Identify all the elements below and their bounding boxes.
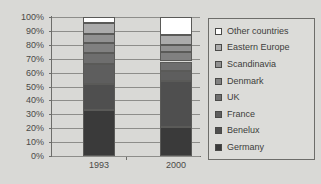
bar-segment [160, 81, 192, 127]
bar-segment [160, 71, 192, 81]
y-axis-tick-label: 20% [26, 124, 44, 133]
y-axis-tick-label: 40% [26, 96, 44, 105]
y-axis-tick-label: 30% [26, 110, 44, 119]
y-axis-tick-label: 0% [31, 152, 44, 161]
legend-item-label: Scandinavia [227, 60, 276, 69]
legend-swatch-icon [215, 61, 222, 68]
bar-segment [160, 62, 192, 72]
legend-item-label: Eastern Europe [227, 43, 290, 52]
chart-legend: Other countriesEastern EuropeScandinavia… [208, 18, 315, 160]
bar-segment [83, 17, 115, 23]
bar-segment [83, 34, 115, 44]
y-axis-tick-label: 50% [26, 82, 44, 91]
legend-swatch-icon [215, 44, 222, 51]
bar-segment [83, 53, 115, 64]
bar-stack [83, 17, 115, 156]
y-axis-tick-label: 90% [26, 26, 44, 35]
bar-segment [83, 23, 115, 34]
y-axis-tick-label: 60% [26, 68, 44, 77]
bar-group [83, 17, 115, 156]
bar-segment [83, 43, 115, 53]
legend-item[interactable]: Eastern Europe [215, 40, 314, 57]
bar-segment [160, 45, 192, 52]
legend-item[interactable]: UK [215, 89, 314, 106]
y-axis-tick-label: 70% [26, 54, 44, 63]
bar-segment [160, 52, 192, 62]
bar-segment [83, 64, 115, 83]
bar-stack [160, 17, 192, 156]
legend-swatch-icon [215, 144, 222, 151]
legend-swatch-icon [215, 127, 222, 134]
y-axis-labels: 0%10%20%30%40%50%60%70%80%90%100% [4, 17, 48, 156]
legend-swatch-icon [215, 78, 222, 85]
legend-swatch-icon [215, 111, 222, 118]
x-axis-tick-mark [126, 157, 127, 160]
x-axis-tick-label: 2000 [146, 161, 206, 170]
legend-swatch-icon [215, 94, 222, 101]
legend-item-label: France [227, 110, 255, 119]
y-axis-tick-label: 100% [21, 13, 44, 22]
legend-item-label: Benelux [227, 126, 260, 135]
bar-segment [160, 35, 192, 45]
legend-item[interactable]: Germany [215, 139, 314, 156]
y-axis-tick-label: 10% [26, 138, 44, 147]
y-axis-tick-label: 80% [26, 40, 44, 49]
legend-item-label: Denmark [227, 77, 264, 86]
bar-segment [83, 110, 115, 156]
bar-segment [83, 84, 115, 110]
bar-segment [160, 127, 192, 156]
legend-item[interactable]: Scandinavia [215, 56, 314, 73]
legend-swatch-icon [215, 28, 222, 35]
stacked-bar-chart: 0%10%20%30%40%50%60%70%80%90%100% 199320… [0, 0, 321, 184]
legend-item-label: Germany [227, 143, 264, 152]
legend-item[interactable]: Other countries [215, 23, 314, 40]
bar-segment [160, 17, 192, 35]
plot-area [52, 17, 200, 156]
legend-item[interactable]: Benelux [215, 123, 314, 140]
x-axis-tick-label: 1993 [69, 161, 129, 170]
bar-group [160, 17, 192, 156]
legend-item[interactable]: France [215, 106, 314, 123]
legend-item-label: UK [227, 93, 240, 102]
legend-item[interactable]: Denmark [215, 73, 314, 90]
legend-item-label: Other countries [227, 27, 289, 36]
